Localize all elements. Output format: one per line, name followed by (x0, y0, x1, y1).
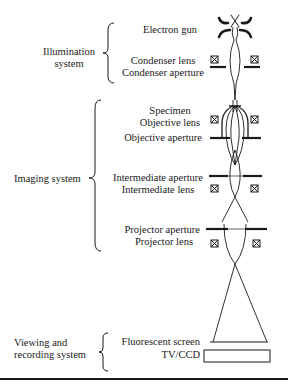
intermediate-lens-icon (211, 185, 258, 192)
tv-ccd-icon (204, 350, 270, 362)
group-braces (89, 23, 114, 371)
objective-lens-icon (211, 106, 258, 138)
electron-beam-rays (213, 27, 267, 342)
viewing-brace (99, 333, 108, 371)
illumination-brace (103, 23, 114, 83)
imaging-brace (89, 100, 101, 251)
condenser-lens-icon (211, 56, 258, 63)
electron-gun-icon (219, 15, 251, 37)
projector-lens-icon (211, 240, 260, 247)
tem-diagram (0, 0, 288, 387)
